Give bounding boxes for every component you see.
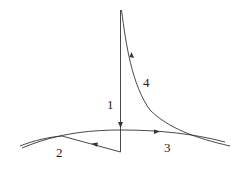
arrow-down-icon xyxy=(118,122,123,128)
segment-3-arc xyxy=(22,130,225,148)
label-3: 3 xyxy=(164,140,171,155)
segment-2-line xyxy=(62,136,121,152)
label-2: 2 xyxy=(56,145,63,160)
arrow-up-icon xyxy=(130,52,135,58)
label-4: 4 xyxy=(143,75,150,90)
arrow-right-icon xyxy=(154,130,160,135)
trajectory-diagram: 1 2 3 4 xyxy=(0,0,231,174)
segment-4-curve xyxy=(122,10,231,146)
label-1: 1 xyxy=(107,97,114,112)
